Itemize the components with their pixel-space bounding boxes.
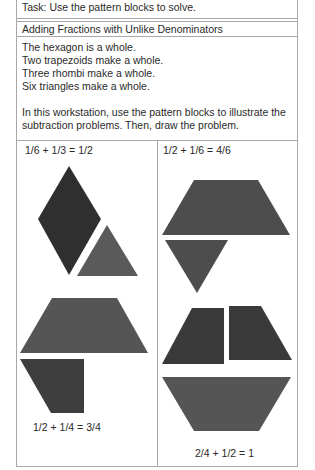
problem-2-equation: 1/2 + 1/6 = 4/6 xyxy=(163,144,231,156)
triangle-shape xyxy=(77,225,138,276)
instructions-text: In this workstation, use the pattern blo… xyxy=(22,106,292,132)
triangle-shape xyxy=(165,240,228,293)
problem-4-equation: 2/4 + 1/2 = 1 xyxy=(195,447,254,459)
task-instruction: Task: Use the pattern blocks to solve. xyxy=(16,0,298,19)
trapezoid-shape xyxy=(20,298,148,353)
rhombus-shape xyxy=(38,166,101,275)
half-trapezoid-shape xyxy=(229,306,292,360)
intro-line: Six triangles make a whole. xyxy=(22,80,292,93)
intro-block: The hexagon is a whole. Two trapezoids m… xyxy=(16,37,298,141)
problem-3-equation: 1/2 + 1/4 = 3/4 xyxy=(33,421,101,433)
worksheet: Task: Use the pattern blocks to solve. A… xyxy=(16,0,298,467)
half-trapezoid-shape xyxy=(162,308,224,364)
problem-grid: 1/6 + 1/3 = 1/2 1/2 + 1/6 = 4/6 1/2 + 1/… xyxy=(16,141,298,467)
trapezoid-shape xyxy=(162,377,291,431)
section-title: Adding Fractions with Unlike Denominator… xyxy=(16,22,298,37)
intro-line: The hexagon is a whole. xyxy=(22,41,292,54)
intro-line: Three rhombi make a whole. xyxy=(22,67,292,80)
column-divider xyxy=(157,141,158,466)
trapezoid-shape xyxy=(162,180,290,235)
intro-line: Two trapezoids make a whole. xyxy=(22,54,292,67)
problem-1-equation: 1/6 + 1/3 = 1/2 xyxy=(25,144,93,156)
half-trapezoid-shape xyxy=(20,359,84,413)
